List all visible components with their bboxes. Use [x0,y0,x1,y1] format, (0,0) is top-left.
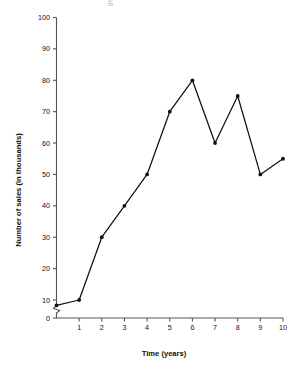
x-axis-tick-label: 10 [279,323,287,332]
x-axis-tick-label: 9 [258,323,262,332]
x-axis-tick-label: 8 [236,323,240,332]
scan-artifact-glyph: g [108,0,121,6]
data-point-marker [145,173,149,177]
y-axis-tick-label: 30 [42,233,50,242]
x-axis-tick-label: 3 [122,323,126,332]
y-axis-tick-label: 60 [42,139,50,148]
x-axis-tick-label: 6 [190,323,194,332]
y-axis-title: Number of sales (in thousands) [14,133,23,247]
data-point-marker [168,110,172,114]
data-point-marker [258,173,262,177]
y-axis-tick-group: 0102030405060708090100 [38,13,57,323]
x-axis-tick-group: 12345678910 [77,318,287,332]
y-axis-tick-label: 20 [42,264,50,273]
data-point-marker [77,298,81,302]
chart-figure: g 0102030405060708090100 12345678910 Tim… [0,0,291,372]
x-axis-tick-label: 7 [213,323,217,332]
y-axis-tick-label: 100 [38,13,50,22]
y-axis-tick-label: 10 [42,296,50,305]
x-axis-tick-label: 2 [100,323,104,332]
y-axis-tick-label: 80 [42,76,50,85]
y-axis-tick-label: 0 [46,314,50,323]
data-point-marker [123,204,127,208]
data-point-marker [213,141,217,145]
x-axis-tick-label: 1 [77,323,81,332]
y-axis-tick-label: 90 [42,44,50,53]
data-series-line [57,80,284,305]
y-axis-tick-label: 70 [42,107,50,116]
x-axis-tick-label: 5 [168,323,172,332]
data-point-marker [281,157,285,161]
x-axis-tick-label: 4 [145,323,149,332]
data-point-marker [236,94,240,98]
data-point-marker [100,235,104,239]
y-axis-tick-label: 40 [42,201,50,210]
line-chart: 0102030405060708090100 12345678910 Time … [0,0,291,372]
x-axis-title: Time (years) [142,349,187,358]
y-axis-tick-label: 50 [42,170,50,179]
data-point-marker [191,78,195,82]
data-point-marker [55,304,59,308]
